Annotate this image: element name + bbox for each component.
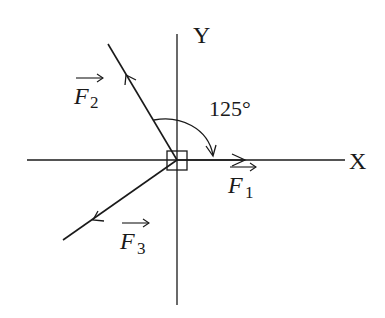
y-axis-label: Y xyxy=(193,22,210,48)
label-f1: F 1 xyxy=(227,163,256,202)
f1-symbol: F xyxy=(227,172,243,198)
vector-f2 xyxy=(108,44,177,160)
label-f3: F 3 xyxy=(119,219,149,258)
f3-subscript: 3 xyxy=(137,239,146,258)
f1-subscript: 1 xyxy=(245,183,254,202)
f2-symbol: F xyxy=(73,83,89,109)
force-diagram: Y X 125° F 2 F 1 F 3 xyxy=(0,0,385,318)
label-f2: F 2 xyxy=(73,74,103,112)
f2-subscript: 2 xyxy=(90,93,99,112)
x-axis-label: X xyxy=(349,148,366,174)
f3-symbol: F xyxy=(119,228,135,254)
angle-label: 125° xyxy=(209,96,251,121)
